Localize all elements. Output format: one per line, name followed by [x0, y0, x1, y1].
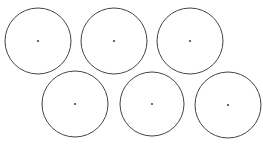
center-dot: [189, 40, 191, 42]
center-dot: [151, 103, 153, 105]
circle-5: [120, 72, 184, 136]
circle-6: [195, 72, 261, 138]
circle-3: [157, 8, 223, 74]
circle-1: [5, 8, 71, 74]
center-dot: [74, 103, 76, 105]
center-dot: [227, 104, 229, 106]
circle-4: [42, 71, 108, 137]
circles-diagram: [0, 0, 263, 144]
circle-2: [81, 8, 147, 74]
center-dot: [37, 40, 39, 42]
center-dot: [113, 40, 115, 42]
